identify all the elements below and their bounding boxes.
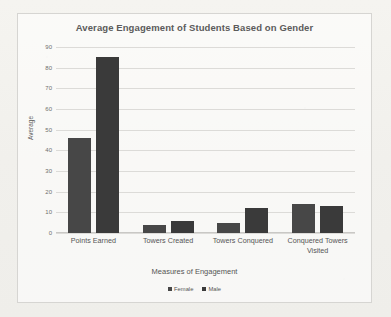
chart-title: Average Engagement of Students Based on … [18, 22, 371, 33]
y-axis-tick-label: 10 [45, 209, 52, 215]
legend-swatch-icon [202, 287, 206, 291]
x-axis-title: Measures of Engagement [18, 267, 371, 276]
bar-female[interactable] [292, 204, 315, 233]
y-axis-title: Average [27, 116, 34, 140]
legend-item-male[interactable]: Male [202, 286, 221, 292]
y-axis-tick-label: 60 [45, 106, 52, 112]
y-axis-tick-label: 50 [45, 127, 52, 133]
legend-swatch-icon [168, 287, 172, 291]
legend-label: Male [208, 286, 221, 292]
chart-legend: FemaleMale [18, 286, 371, 292]
gridline [56, 233, 355, 234]
y-axis-tick-label: 70 [45, 85, 52, 91]
x-axis-category-label: Conquered Towers Visited [280, 236, 355, 256]
bar-group [56, 47, 131, 233]
bar-female[interactable] [143, 225, 166, 233]
legend-label: Female [174, 286, 193, 292]
plot-area: 9080706050403020100 [56, 47, 355, 233]
y-axis-tick-label: 90 [45, 44, 52, 50]
bar-group [280, 47, 355, 233]
bar-male[interactable] [171, 221, 194, 233]
bar-groups [56, 47, 355, 233]
bar-group [131, 47, 206, 233]
chart-container: Average Engagement of Students Based on … [17, 13, 372, 303]
x-axis-category-labels: Points EarnedTowers CreatedTowers Conque… [56, 236, 355, 256]
bar-female[interactable] [217, 223, 240, 233]
legend-item-female[interactable]: Female [168, 286, 193, 292]
bar-group [206, 47, 281, 233]
bar-male[interactable] [245, 208, 268, 233]
x-axis-category-label: Towers Conquered [206, 236, 281, 256]
y-axis-tick-label: 80 [45, 65, 52, 71]
y-axis-tick-label: 20 [45, 189, 52, 195]
y-axis-tick-label: 30 [45, 168, 52, 174]
x-axis-category-label: Points Earned [56, 236, 131, 256]
bar-male[interactable] [320, 206, 343, 233]
bar-male[interactable] [96, 57, 119, 233]
bar-female[interactable] [68, 138, 91, 233]
y-axis-tick-label: 40 [45, 147, 52, 153]
x-axis-category-label: Towers Created [131, 236, 206, 256]
y-axis-tick-label: 0 [49, 230, 52, 236]
